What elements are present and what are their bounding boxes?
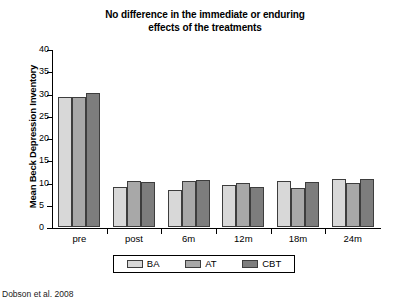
bar-AT-12m [236,183,250,228]
bar-CBT-post [141,182,155,227]
bar-BA-pre [58,97,72,227]
x-tick-label-pre: pre [49,233,109,244]
bar-CBT-6m [196,180,210,227]
bar-group-6m [168,49,210,227]
y-tick [47,228,52,229]
bar-BA-18m [277,181,291,227]
chart-title: No difference in the immediate or enduri… [60,8,350,34]
y-tick [47,206,52,207]
x-tick-label-post: post [104,233,164,244]
bar-group-12m [222,49,264,227]
x-tick-label-12m: 12m [213,233,273,244]
legend-swatch-BA [127,260,143,268]
bar-group-24m [332,49,374,227]
x-tick-label-6m: 6m [159,233,219,244]
legend-label-CBT: CBT [262,259,281,269]
bar-CBT-18m [305,182,319,227]
bar-CBT-12m [250,187,264,227]
y-axis-title: Mean Beck Depression Inventory [27,42,38,232]
bar-AT-24m [346,183,360,228]
legend-item-BA[interactable]: BA [127,259,160,269]
bar-group-18m [277,49,319,227]
bar-CBT-24m [360,179,374,227]
bar-AT-pre [72,97,86,227]
chart-legend: BAATCBT [113,255,295,273]
chart-title-line-2: effects of the treatments [60,21,350,34]
figure-caption: Dobson et al. 2008 [2,289,395,298]
plot-area: 4035302520151050 prepost6m12m18m24m [52,50,380,228]
x-tick-label-18m: 18m [268,233,328,244]
legend-label-BA: BA [147,259,160,269]
y-axis-line [52,50,53,229]
bar-CBT-pre [86,93,100,227]
bar-BA-6m [168,190,182,227]
chart-title-line-1: No difference in the immediate or enduri… [60,8,350,21]
legend-item-AT[interactable]: AT [185,259,216,269]
legend-item-CBT[interactable]: CBT [242,259,281,269]
chart-figure: No difference in the immediate or enduri… [0,0,397,298]
x-tick-label-24m: 24m [323,233,383,244]
bar-AT-6m [182,181,196,227]
legend-label-AT: AT [205,259,216,269]
bar-BA-24m [332,179,346,227]
bar-BA-post [113,187,127,227]
bar-BA-12m [222,185,236,227]
legend-swatch-AT [185,260,201,268]
bar-group-post [113,49,155,227]
legend-swatch-CBT [242,260,258,268]
bar-group-pre [58,49,100,227]
bar-AT-18m [291,188,305,227]
bar-AT-post [127,181,141,227]
